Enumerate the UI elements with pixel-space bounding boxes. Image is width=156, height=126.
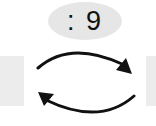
count-badge-label: : 9 xyxy=(67,6,103,37)
swap-cycle-arrows-icon[interactable] xyxy=(30,44,140,118)
right-panel-edge xyxy=(146,56,156,106)
count-badge: : 9 xyxy=(48,2,122,40)
left-panel-edge xyxy=(0,56,24,106)
